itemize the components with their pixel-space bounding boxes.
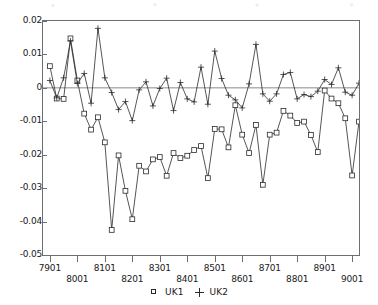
data-point-marker [287,69,293,75]
data-point-marker [116,153,121,158]
data-point-marker [349,92,355,98]
data-point-marker [185,153,190,158]
data-point-marker [95,25,101,31]
x-axis-tick-label: 8201 [121,275,143,284]
y-axis-tick-mark [42,121,47,122]
x-axis-tick-label: 8801 [286,275,308,284]
data-point-marker [47,78,53,84]
data-point-marker [164,75,170,81]
data-point-marker [212,48,218,54]
data-point-marker [157,155,162,160]
chart-container: UK1UK2 0.020.010-0.01-0.02-0.03-0.04-0.0… [0,0,378,305]
data-point-marker [102,75,108,81]
x-axis-tick-mark [352,256,353,262]
data-point-marker [192,148,197,153]
data-point-marker [294,96,300,102]
data-point-marker [247,151,252,156]
data-point-marker [336,101,341,106]
y-axis-tick-label: -0.03 [20,183,42,192]
data-point-marker [343,116,348,121]
x-axis-tick-mark [77,256,78,262]
data-point-marker [171,151,176,156]
data-point-marker [205,176,210,181]
data-point-marker [302,119,307,124]
data-point-marker [164,173,169,178]
y-axis-tick-mark [42,255,47,256]
data-point-marker [61,96,66,101]
data-point-marker [137,163,142,168]
x-axis-tick-mark [50,256,51,262]
x-axis-tick-label: 8301 [149,264,171,273]
series-line [50,28,359,120]
data-point-marker [267,132,272,137]
data-point-marker [280,71,286,77]
data-point-marker [199,144,204,149]
data-point-marker [177,80,183,86]
y-axis-tick-mark [42,155,47,156]
data-point-marker [335,65,341,71]
data-point-marker [281,109,286,114]
data-point-marker [260,182,265,187]
data-point-marker [109,90,115,96]
data-point-marker [274,130,279,135]
data-point-marker [123,188,128,193]
data-point-marker [89,127,94,132]
data-point-marker [254,123,259,128]
data-point-marker [81,70,87,76]
y-axis-tick-label: -0.05 [20,250,42,259]
data-point-marker [102,140,107,145]
series-uk2 [47,25,359,123]
data-point-marker [226,145,231,150]
data-point-marker [350,173,355,178]
data-point-marker [144,169,149,174]
x-axis-tick-mark [187,256,188,262]
data-point-marker [246,81,252,87]
x-axis-tick-mark [270,256,271,262]
y-axis-tick-mark [42,188,47,189]
data-point-marker [82,111,87,116]
data-point-marker [315,150,320,155]
x-axis-tick-mark [325,256,326,262]
legend-entry-uk2[interactable]: UK2 [195,288,229,297]
y-axis-tick-label: 0.01 [23,49,42,58]
data-point-marker [240,132,245,137]
y-axis-tick-label: 0.02 [23,16,42,25]
data-point-marker [157,86,163,92]
x-axis-tick-mark [160,256,161,262]
scan-artifact [0,0,378,10]
data-point-marker [178,156,183,161]
legend-label: UK2 [210,288,229,297]
data-point-marker [219,76,225,82]
y-axis-tick-mark [42,88,47,89]
data-point-marker [342,89,348,95]
data-point-marker [219,127,224,132]
data-point-marker [205,101,211,107]
data-point-marker [88,100,94,106]
x-axis-tick-mark [215,256,216,262]
data-point-marker [212,127,217,132]
data-point-marker [130,217,135,222]
x-axis-tick-mark [297,256,298,262]
square-marker-icon [150,288,159,297]
y-axis-tick-label: -0.04 [20,217,42,226]
data-point-marker [288,113,293,118]
legend-entry-uk1[interactable]: UK1 [150,288,184,297]
x-axis-tick-label: 8701 [259,264,281,273]
x-axis-tick-label: 9001 [341,275,363,284]
data-point-marker [184,96,190,102]
y-axis-tick-mark [42,54,47,55]
data-point-marker [233,103,238,108]
series-canvas [43,21,359,255]
x-axis-tick-label: 8401 [176,275,198,284]
y-axis-tick-label: -0.02 [20,150,42,159]
data-point-marker [253,41,259,47]
legend-label: UK1 [165,288,184,297]
x-axis-tick-label: 8601 [231,275,253,284]
plus-marker-icon [195,288,204,297]
chart-legend: UK1UK2 [0,288,378,297]
data-point-marker [322,77,328,83]
data-point-marker [329,82,335,88]
data-point-marker [198,64,204,70]
data-point-marker [322,88,327,93]
data-point-marker [295,121,300,126]
